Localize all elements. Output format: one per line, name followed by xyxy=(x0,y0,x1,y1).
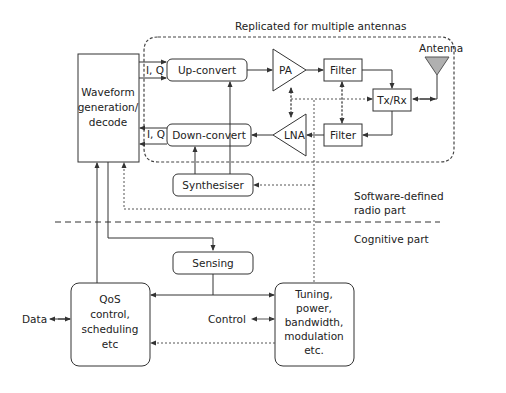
svg-text:power,: power, xyxy=(296,302,332,314)
svg-text:decode: decode xyxy=(89,116,127,128)
control-label: Control xyxy=(208,313,246,325)
svg-text:Down-convert: Down-convert xyxy=(172,129,246,141)
svg-text:QoS: QoS xyxy=(99,293,121,305)
sdr-part-label: Software-defined xyxy=(354,190,444,202)
iq-down-label: I, Q xyxy=(147,128,165,140)
filter-bottom-block: Filter xyxy=(324,124,362,146)
sensing-block: Sensing xyxy=(173,252,253,274)
svg-text:Synthesiser: Synthesiser xyxy=(182,179,244,191)
svg-text:Waveform: Waveform xyxy=(81,86,134,98)
txrx-switch-block: Tx/Rx xyxy=(373,89,411,111)
synthesiser-block: Synthesiser xyxy=(173,174,253,196)
svg-text:scheduling: scheduling xyxy=(82,323,139,335)
waveform-generation-block: Waveform generation/ decode xyxy=(78,54,139,162)
svg-text:Filter: Filter xyxy=(330,129,357,141)
iq-up-label: I, Q xyxy=(146,64,164,76)
sdr-part-label-2: radio part xyxy=(354,204,406,216)
svg-text:bandwidth,: bandwidth, xyxy=(285,316,344,328)
svg-text:Tx/Rx: Tx/Rx xyxy=(376,94,407,106)
svg-text:generation/: generation/ xyxy=(78,101,139,113)
svg-text:Sensing: Sensing xyxy=(192,257,234,269)
svg-text:Filter: Filter xyxy=(330,64,357,76)
qos-control-block: QoS control, scheduling etc xyxy=(71,283,150,366)
svg-text:etc.: etc. xyxy=(304,344,324,356)
svg-text:Tuning,: Tuning, xyxy=(294,288,333,300)
cognitive-radio-diagram: Replicated for multiple antennas Wavefor… xyxy=(0,0,506,393)
antenna-label: Antenna xyxy=(419,42,463,54)
replicated-region-label: Replicated for multiple antennas xyxy=(235,20,406,32)
svg-text:etc: etc xyxy=(102,338,119,350)
upconvert-block: Up-convert xyxy=(167,59,247,81)
antenna-icon: Antenna xyxy=(419,42,463,75)
filter-top-block: Filter xyxy=(324,59,362,81)
power-amplifier: PA xyxy=(273,49,306,91)
tuning-block: Tuning, power, bandwidth, modulation etc… xyxy=(275,283,354,366)
cognitive-part-label: Cognitive part xyxy=(354,233,429,245)
svg-text:modulation: modulation xyxy=(284,330,343,342)
svg-text:PA: PA xyxy=(279,64,293,76)
svg-text:LNA: LNA xyxy=(284,129,306,141)
svg-text:Up-convert: Up-convert xyxy=(178,64,236,76)
downconvert-block: Down-convert xyxy=(167,124,251,146)
data-label: Data xyxy=(22,313,47,325)
low-noise-amplifier: LNA xyxy=(273,114,306,156)
svg-text:control,: control, xyxy=(90,308,130,320)
